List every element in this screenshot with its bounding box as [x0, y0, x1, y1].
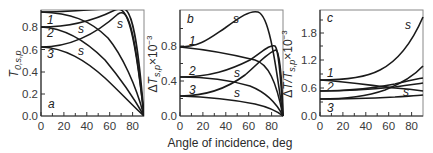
panel-b-x-tick-labels: 0 20 40 60 80 [177, 120, 278, 132]
panel-c: 0.0 0.6 1.2 1.8 0 20 40 60 80 ΔT/Ts,p×10… [280, 10, 423, 132]
panel-c-xtick: 40 [359, 120, 372, 132]
curve-label-s: s [117, 17, 123, 31]
curve-label-1: 1 [189, 34, 196, 48]
panel-c-y-tick-labels: 0.0 0.6 1.2 1.8 [301, 27, 317, 122]
panel-a-ytick: 0.8 [22, 21, 38, 33]
figure-canvas: 0.0 0.2 0.4 0.6 0.8 0 20 40 60 80 T0,s,p… [0, 0, 433, 153]
panel-b-xtick: 0 [177, 120, 183, 132]
curve-label-2: 2 [46, 26, 54, 40]
panel-a-y-tick-labels: 0.0 0.2 0.4 0.6 0.8 [22, 21, 39, 122]
curve-label-1: 1 [47, 13, 54, 27]
panel-b-y-tick-labels: 0.0 0.4 0.8 [161, 40, 178, 122]
curve-label-2: 2 [326, 80, 334, 94]
panel-b-xtick: 40 [219, 120, 232, 132]
curve-3-p [180, 96, 283, 116]
panel-c-ytick: 0.6 [301, 82, 317, 94]
curve-label-s: s [233, 12, 239, 26]
panel-c-ytick: 1.2 [301, 54, 317, 66]
curve-label-s: s [403, 85, 409, 99]
curve-label-s: s [234, 66, 240, 80]
panel-a: 0.0 0.2 0.4 0.6 0.8 0 20 40 60 80 T0,s,p… [7, 9, 144, 132]
panel-a-ticks [41, 27, 133, 116]
panel-a-xtick: 80 [126, 120, 139, 132]
curve-label-s: s [78, 44, 84, 58]
panel-b: 0.0 0.4 0.8 0 20 40 60 80 ΔTs,p×10−3 1 2… [145, 10, 283, 132]
panel-a-curves [41, 9, 144, 116]
curve-label-3: 3 [47, 47, 54, 61]
curve-label-2: 2 [188, 64, 196, 78]
panel-b-ytick: 0.0 [161, 110, 177, 122]
panel-b-xtick: 60 [242, 120, 255, 132]
curve-label-s: s [234, 86, 240, 100]
panel-c-xtick: 80 [405, 120, 418, 132]
panel-b-ytick: 0.8 [161, 40, 177, 52]
panel-c-ytick: 0.0 [301, 110, 317, 122]
x-axis-title: Angle of incidence, deg [168, 136, 293, 150]
panel-a-xtick: 0 [38, 120, 44, 132]
curve-label-3: 3 [189, 83, 196, 97]
panel-c-ytick: 1.8 [301, 27, 317, 39]
curve-3-s [41, 47, 144, 116]
panel-a-letter: a [48, 97, 55, 111]
panel-c-xtick: 0 [317, 120, 323, 132]
panel-b-ylabel: ΔTs,p×10−3 [145, 35, 162, 92]
panel-c-letter: c [327, 11, 333, 25]
panel-a-xtick: 60 [103, 120, 116, 132]
panel-a-ytick: 0.4 [22, 66, 39, 78]
panel-a-ytick: 0.6 [22, 44, 38, 56]
panel-b-letter: b [187, 12, 194, 26]
panel-c-x-tick-labels: 0 20 40 60 80 [317, 120, 418, 132]
panel-a-x-tick-labels: 0 20 40 60 80 [38, 120, 139, 132]
panel-a-ytick: 0.2 [22, 88, 38, 100]
panel-b-xtick: 20 [197, 120, 210, 132]
curve-label-3: 3 [327, 101, 334, 115]
panel-c-ticks [320, 20, 412, 116]
curve-label-s: s [78, 22, 84, 36]
panel-b-ytick: 0.4 [161, 75, 178, 87]
panel-a-ylabel: T0,s,p [7, 51, 23, 78]
panel-a-ytick: 0.0 [22, 110, 38, 122]
panel-c-xtick: 20 [337, 120, 350, 132]
panel-c-xtick: 60 [382, 120, 395, 132]
curve-label-s: s [405, 18, 411, 32]
panel-b-xtick: 80 [265, 120, 278, 132]
panel-a-xtick: 40 [80, 120, 93, 132]
panel-a-xtick: 20 [58, 120, 71, 132]
curve-label-1: 1 [327, 66, 334, 80]
